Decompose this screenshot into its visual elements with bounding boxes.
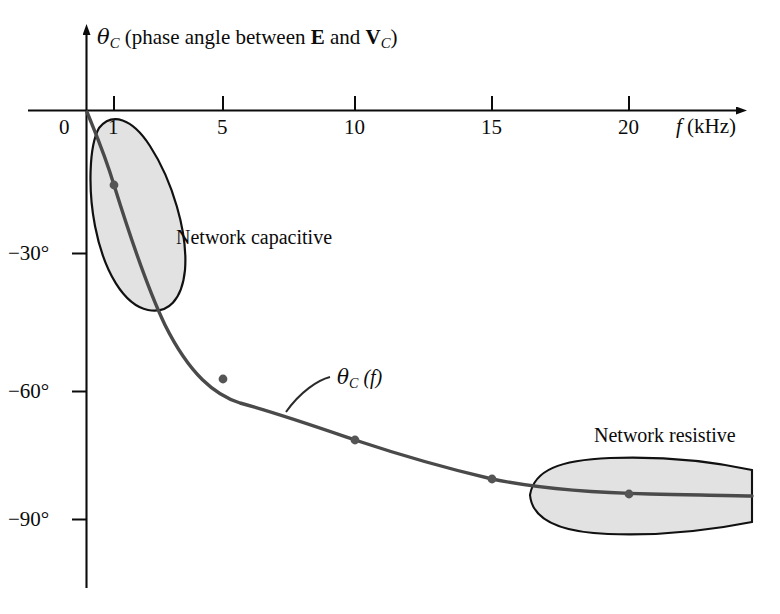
region-network-capacitive [90, 119, 185, 310]
phase-angle-chart: θC (phase angle between E and VC) f (kHz… [0, 0, 780, 614]
y-axis-title-v: V [366, 25, 381, 49]
x-axis-title: f (kHz) [676, 116, 736, 137]
x-tick-label-10: 10 [344, 117, 365, 138]
y-tick-label-minus90: −90° [8, 509, 49, 530]
y-tick-label-minus30: −30° [8, 243, 49, 264]
y-axis-title-text: (phase angle between [119, 25, 310, 49]
curve-label-theta-c: θC (f) [337, 367, 382, 391]
x-tick-label-0: 0 [59, 117, 70, 138]
curve-label-theta: θ [337, 365, 349, 389]
y-axis-title-close: ) [391, 25, 398, 49]
y-axis-title-subscript: C [110, 35, 120, 51]
chart-canvas [0, 0, 780, 614]
y-axis-title-e: E [311, 25, 325, 49]
curve-label-leader [286, 377, 330, 412]
data-point [488, 475, 497, 484]
curve-label-arg: (f) [363, 366, 382, 388]
y-axis-title: θC (phase angle between E and VC) [97, 27, 398, 51]
annotation-network-resistive: Network resistive [594, 425, 736, 445]
y-axis-title-and: and [325, 25, 366, 49]
data-point [625, 490, 634, 499]
x-tick-label-20: 20 [618, 117, 639, 138]
x-tick-label-5: 5 [217, 117, 228, 138]
x-axis-title-symbol: f [676, 114, 682, 138]
y-tick-label-minus60: −60° [8, 381, 49, 402]
annotation-network-capacitive: Network capacitive [176, 227, 332, 247]
curve-label-subscript: C [349, 376, 358, 391]
x-axis-title-unit: (kHz) [687, 114, 736, 138]
x-tick-label-15: 15 [481, 117, 502, 138]
y-tick-marks [72, 254, 87, 520]
data-point [219, 375, 228, 384]
data-point [351, 436, 360, 445]
x-tick-marks [114, 96, 629, 110]
y-axis-title-v-subscript: C [381, 35, 391, 51]
data-point [110, 181, 119, 190]
x-tick-label-1: 1 [108, 117, 119, 138]
y-axis-title-theta: θ [97, 25, 110, 49]
